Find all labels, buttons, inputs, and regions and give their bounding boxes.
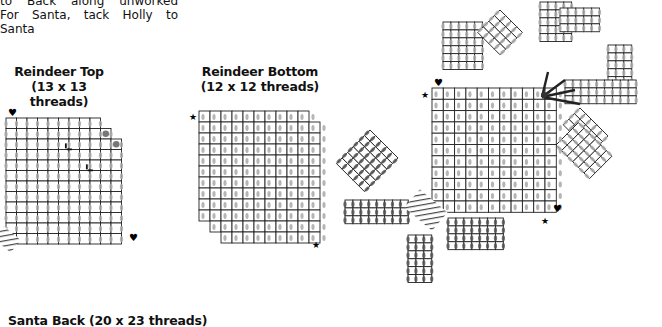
holly-chart [335, 2, 637, 282]
heart-marker-icon: ♥ [8, 107, 17, 118]
reindeer-top-chart [0, 118, 123, 253]
star-marker-icon: ★ [421, 90, 429, 100]
star-marker-icon: ★ [312, 240, 320, 250]
pattern-charts: ♥ ♥ ★ ★ ♥ ★ ♥ ★ [0, 0, 662, 327]
heart-marker-icon: ♥ [129, 232, 138, 243]
heart-marker-icon: ♥ [434, 77, 443, 88]
star-marker-icon: ★ [189, 112, 197, 122]
reindeer-bottom-chart [199, 111, 326, 243]
star-marker-icon: ★ [541, 216, 549, 226]
heart-marker-icon: ♥ [553, 203, 562, 214]
